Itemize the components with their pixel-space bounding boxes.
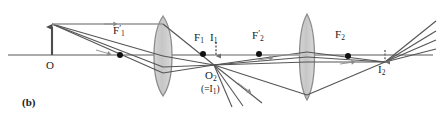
- dot-F2-prime: [256, 51, 262, 57]
- label-I2: I2: [378, 64, 385, 77]
- ray-c-out-lens2: [307, 62, 385, 95]
- label-I1-sub: 1: [214, 36, 218, 45]
- dot-F1-prime: [117, 52, 123, 58]
- ray-diagram-canvas: [0, 0, 441, 116]
- optics-ray-diagram-figure: O F′1 F1 I1 O2 (=I1) F′2 F2 I2 (b): [0, 0, 441, 116]
- label-F1-sub: 1: [200, 36, 204, 45]
- ray-cross-down-1: [214, 65, 262, 103]
- dot-F1: [200, 51, 206, 57]
- label-O-base: O: [46, 59, 54, 71]
- label-O2-eq-close: ): [216, 84, 219, 94]
- label-I1: I1: [210, 32, 217, 45]
- label-F1-prime-sub: 1: [121, 29, 125, 38]
- label-I2-sub: 2: [382, 68, 386, 77]
- label-F2-prime: F′2: [252, 29, 264, 42]
- label-O: O: [46, 60, 54, 71]
- ray-marginal-in-lens1: [52, 24, 163, 67]
- label-F2: F2: [335, 29, 345, 42]
- ray-c-in-lens2: [214, 65, 307, 95]
- incident-rays-lens-2: [214, 52, 307, 95]
- label-O2-equals-I1: (=I1): [201, 85, 220, 96]
- ray-through-focus-in-lens1: [52, 24, 163, 73]
- refracted-rays-lens-2: [307, 21, 436, 95]
- label-F2-sub: 2: [341, 33, 345, 42]
- ray-b-beyond-i2: [385, 31, 436, 62]
- label-O2: O2: [205, 70, 217, 83]
- construction-lines: [52, 24, 307, 55]
- panel-label-b: (b): [22, 97, 35, 108]
- tick-ray-crossing: [238, 83, 250, 92]
- label-O2-sub: 2: [213, 74, 217, 83]
- label-O2-base: O: [205, 69, 213, 81]
- crossing-rays-through-O2: [214, 65, 262, 107]
- incident-rays-lens-1: [52, 24, 163, 73]
- label-O2-eq-open: (=I: [201, 84, 213, 94]
- tick-ray-centre-1: [96, 50, 110, 54]
- dot-F2: [345, 53, 351, 59]
- ray-through-centre-in-lens1: [52, 24, 163, 56]
- label-F1: F1: [194, 32, 204, 45]
- label-F2-prime-sub: 2: [260, 34, 264, 43]
- label-F1-prime: F′1: [113, 24, 125, 37]
